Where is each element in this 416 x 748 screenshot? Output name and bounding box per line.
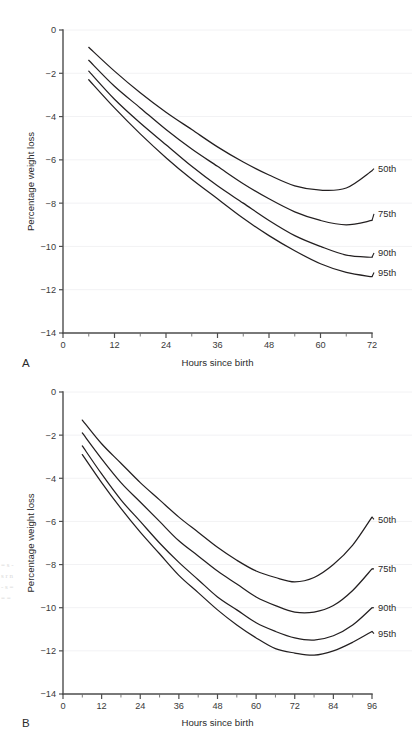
panel-b-letter: B (22, 717, 30, 729)
panel-a-ytick-label: −10 (40, 242, 56, 252)
panel-b-xtick-label: 48 (212, 701, 222, 711)
leader-line-75th (372, 214, 374, 221)
panel-a-ytick-label: −8 (46, 199, 56, 209)
panel-a-xtick-label: 72 (367, 340, 377, 350)
curve-95th (82, 455, 372, 656)
series-label-90th: 90th (378, 247, 396, 258)
series-label-75th: 75th (378, 563, 396, 574)
panel-a-curves (89, 47, 374, 276)
panel-a-xtick-label: 12 (109, 340, 119, 350)
panel-a-xtick-label: 24 (161, 340, 171, 350)
panel-a-xtick-label: 60 (315, 340, 325, 350)
panel-a-ytick-label: 0 (51, 25, 56, 35)
panel-a-ytick-label: −12 (40, 285, 56, 295)
leader-line-50th (372, 169, 374, 171)
chart-panel-a: 0−2−4−6−8−10−12−140122436486072 50th75th… (0, 0, 416, 374)
panel-b-ytick-label: 0 (51, 387, 56, 397)
panel-a-xtick-label: 36 (212, 340, 222, 350)
panel-a-yaxis-title: Percentage weight loss (25, 132, 36, 231)
series-label-90th: 90th (378, 602, 396, 613)
series-label-95th: 95th (378, 628, 396, 639)
panel-a-gridlines (63, 30, 412, 290)
panel-b-ytick-label: −12 (40, 646, 56, 656)
leader-line-95th (372, 272, 374, 276)
panel-b-gridlines (63, 392, 412, 651)
panel-a-ytick-label: −2 (46, 69, 56, 79)
panel-a-ytick-label: −4 (46, 112, 56, 122)
panel-a-series-labels: 50th75th90th95th (378, 163, 396, 278)
panel-a-letter: A (22, 357, 30, 369)
curve-95th (89, 80, 372, 277)
panel-b-xtick-label: 72 (290, 701, 300, 711)
chart-panel-b: 0−2−4−6−8−10−12−1401224364860728496 50th… (0, 374, 416, 748)
panel-b-axes (63, 392, 372, 694)
panel-b-ytick-label: −2 (46, 431, 56, 441)
series-label-50th: 50th (378, 514, 396, 525)
leader-line-50th (372, 517, 374, 519)
panel-b-xtick-label: 12 (97, 701, 107, 711)
series-label-95th: 95th (378, 267, 396, 278)
panel-b-xaxis-title: Hours since birth (182, 717, 254, 728)
panel-a-ytick-label: −6 (46, 155, 56, 165)
leader-line-95th (372, 631, 374, 633)
panel-b-curves (82, 420, 374, 655)
panel-b-series-labels: 50th75th90th95th (378, 514, 396, 639)
panel-b-svg: 0−2−4−6−8−10−12−1401224364860728496 50th… (0, 374, 416, 748)
panel-b-ytick-label: −4 (46, 474, 56, 484)
panel-b-xtick-label: 36 (174, 701, 184, 711)
panel-b-xtick-label: 0 (60, 701, 65, 711)
series-label-75th: 75th (378, 208, 396, 219)
curve-90th (82, 446, 372, 640)
panel-b-xtick-label: 60 (251, 701, 261, 711)
curve-75th (82, 433, 372, 613)
panel-b-xtick-label: 24 (135, 701, 145, 711)
panel-b-xtick-label: 84 (328, 701, 338, 711)
curve-50th (82, 420, 372, 582)
panel-a-axes (63, 30, 372, 333)
panel-a-xaxis-title: Hours since birth (182, 357, 254, 368)
panel-b-ytick-label: −8 (46, 560, 56, 570)
panel-a-svg: 0−2−4−6−8−10−12−140122436486072 50th75th… (0, 0, 416, 374)
panel-b-xtick-label: 96 (367, 701, 377, 711)
curve-50th (89, 47, 372, 190)
series-label-50th: 50th (378, 163, 396, 174)
leader-line-90th (372, 253, 374, 257)
panel-b-yaxis-title: Percentage weight loss (25, 493, 36, 592)
panel-a-xtick-label: 0 (60, 340, 65, 350)
panel-b-ytick-label: −10 (40, 603, 56, 613)
panel-b-ytick-label: −14 (40, 689, 56, 699)
panel-b-ytick-label: −6 (46, 517, 56, 527)
panel-a-xtick-label: 48 (264, 340, 274, 350)
curve-90th (89, 71, 372, 257)
panel-b-ticklabels: 0−2−4−6−8−10−12−1401224364860728496 (40, 387, 377, 711)
panel-a-ytick-label: −14 (40, 328, 56, 338)
